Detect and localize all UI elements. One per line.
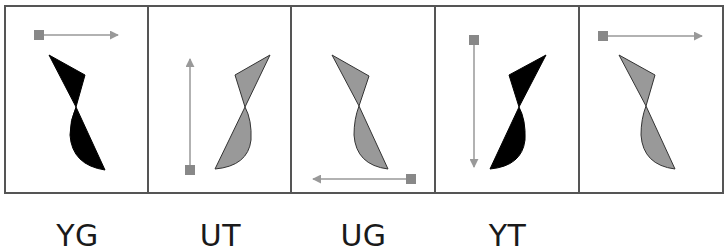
- arrow-origin-square: [469, 35, 479, 45]
- figure-frame: [5, 6, 723, 193]
- panel-label-ut: UT: [149, 218, 292, 250]
- panel-label-ug: UG: [292, 218, 435, 250]
- panel-label-yg: YG: [6, 218, 149, 250]
- arrow-origin-square: [185, 165, 195, 175]
- arrow-origin-square: [598, 31, 608, 41]
- figure-canvas: [0, 0, 725, 250]
- arrow-origin-square: [34, 30, 44, 40]
- panel-label-yt: YT: [436, 218, 579, 250]
- arrow-origin-square: [406, 174, 416, 184]
